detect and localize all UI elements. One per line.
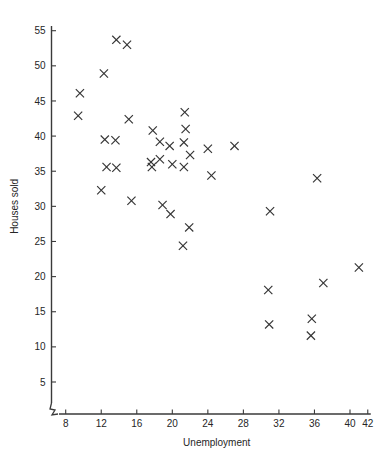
data-point-marker [156,138,164,146]
y-tick-label: 5 [40,377,46,388]
data-point-marker [148,163,156,171]
x-tick-label: 28 [238,418,250,429]
y-tick-label: 15 [34,306,46,317]
data-point-marker [307,332,315,340]
data-point-marker [123,41,131,49]
data-point-marker [204,145,212,153]
data-point-marker [264,286,272,294]
data-point-marker [112,36,120,44]
x-axis-title: Unemployment [183,437,250,448]
y-tick-label: 45 [34,96,46,107]
y-tick-label: 40 [34,131,46,142]
x-tick-label: 42 [362,418,374,429]
y-axis-title: Houses sold [9,179,20,234]
y-tick-label: 55 [34,25,46,36]
data-point-marker [265,320,273,328]
data-point-marker [185,223,193,231]
data-point-marker [230,142,238,150]
data-point-marker [266,207,274,215]
data-point-marker [127,197,135,205]
data-point-marker [166,210,174,218]
data-point-marker [319,279,327,287]
x-tick-label: 32 [273,418,285,429]
scatter-plot-figure: 5101520253035404550558121620242832364042… [0,0,386,463]
data-point-marker [149,126,157,134]
data-point-marker [181,108,189,116]
data-point-marker [179,242,187,250]
y-tick-label: 20 [34,271,46,282]
data-point-marker [125,115,133,123]
data-point-marker [186,151,194,159]
x-tick-label: 24 [202,418,214,429]
y-tick-label: 35 [34,166,46,177]
data-point-marker [111,136,119,144]
data-point-marker [313,174,321,182]
data-point-marker [168,160,176,168]
data-point-marker [74,112,82,120]
data-point-marker [76,89,84,97]
data-point-marker [308,315,316,323]
data-point-marker [180,138,188,146]
data-point-marker [112,164,120,172]
chart-svg: 5101520253035404550558121620242832364042… [0,0,386,463]
x-tick-label: 16 [131,418,143,429]
data-point-marker [355,263,363,271]
data-point-marker [207,171,215,179]
x-tick-label: 8 [63,418,69,429]
data-point-marker [180,163,188,171]
data-point-marker [166,142,174,150]
data-point-marker [156,155,164,163]
y-tick-label: 25 [34,236,46,247]
x-tick-label: 12 [96,418,108,429]
x-tick-label: 40 [344,418,356,429]
x-tick-label: 36 [309,418,321,429]
data-point-marker [158,201,166,209]
y-tick-label: 10 [34,341,46,352]
data-point-marker [101,136,109,144]
data-point-marker [97,186,105,194]
data-point-marker [102,163,110,171]
data-point-marker [100,69,108,77]
y-tick-label: 30 [34,201,46,212]
data-point-marker [182,125,190,133]
axis-break-icon [50,403,58,415]
x-tick-label: 20 [167,418,179,429]
y-tick-label: 50 [34,60,46,71]
